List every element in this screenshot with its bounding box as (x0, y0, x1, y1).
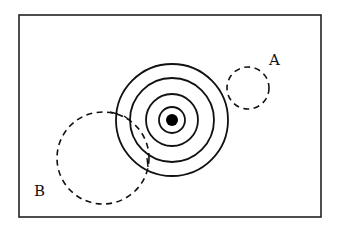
label-a: A (268, 51, 280, 69)
dashed-circle-b (57, 112, 149, 204)
tick-mark (147, 158, 148, 167)
label-b: B (34, 182, 45, 200)
target-center-dot (166, 114, 178, 126)
target-diagram: A B (0, 0, 339, 230)
concentric-target (116, 64, 228, 176)
dashed-circle-a (227, 67, 269, 109)
